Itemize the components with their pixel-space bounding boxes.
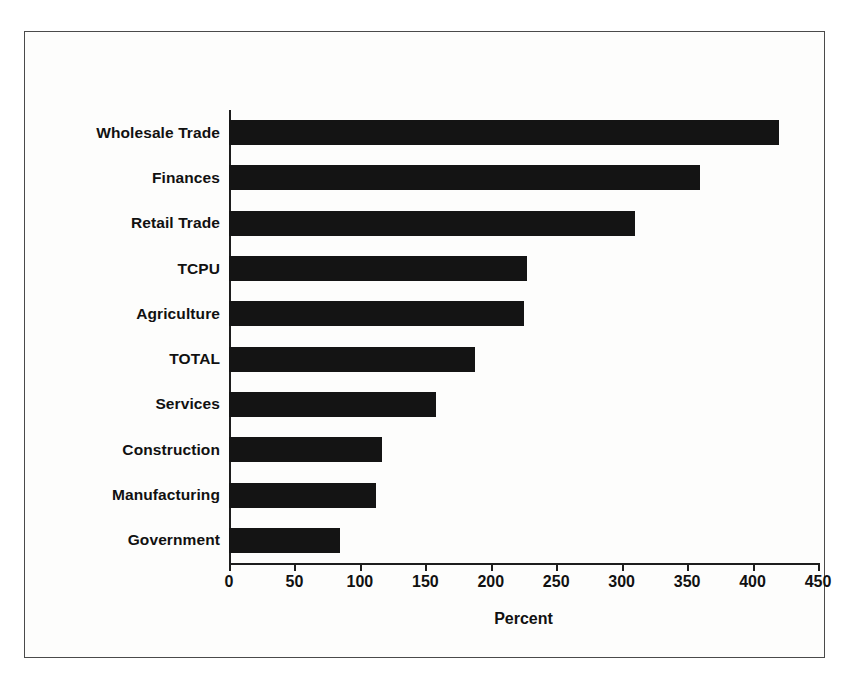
- bar-row: Manufacturing: [229, 483, 818, 508]
- bar-row: TOTAL: [229, 347, 818, 372]
- x-axis-tick: [753, 563, 755, 571]
- bar: [229, 437, 382, 462]
- category-label: Finances: [152, 169, 220, 187]
- bar: [229, 120, 779, 145]
- bar-row: Retail Trade: [229, 211, 818, 236]
- x-axis-tick-label: 50: [286, 573, 304, 591]
- x-axis-tick-label: 400: [739, 573, 766, 591]
- x-axis-tick: [425, 563, 427, 571]
- bar: [229, 211, 635, 236]
- chart-figure: Wholesale TradeFinancesRetail TradeTCPUA…: [0, 0, 851, 675]
- bar-row: Government: [229, 528, 818, 553]
- bar: [229, 301, 524, 326]
- x-axis-tick-label: 200: [477, 573, 504, 591]
- category-label: TOTAL: [169, 350, 220, 368]
- category-label: Construction: [122, 441, 220, 459]
- bar: [229, 392, 436, 417]
- category-label: Agriculture: [136, 305, 220, 323]
- x-axis-tick: [818, 563, 820, 571]
- bar-row: Construction: [229, 437, 818, 462]
- x-axis-tick-label: 300: [608, 573, 635, 591]
- x-axis-line: [229, 563, 820, 565]
- bar: [229, 528, 340, 553]
- category-label: Wholesale Trade: [96, 124, 220, 142]
- bar-row: Agriculture: [229, 301, 818, 326]
- bar: [229, 347, 475, 372]
- category-label: Services: [155, 395, 220, 413]
- x-axis-tick-label: 250: [543, 573, 570, 591]
- bar-row: TCPU: [229, 256, 818, 281]
- x-axis-tick: [360, 563, 362, 571]
- category-label: Manufacturing: [112, 486, 220, 504]
- bar: [229, 483, 376, 508]
- category-label: Retail Trade: [131, 214, 220, 232]
- x-axis-tick: [687, 563, 689, 571]
- x-axis-tick-label: 350: [674, 573, 701, 591]
- x-axis-tick: [556, 563, 558, 571]
- bar-row: Finances: [229, 165, 818, 190]
- category-label: Government: [128, 531, 220, 549]
- x-axis-tick-label: 100: [347, 573, 374, 591]
- x-axis-tick: [491, 563, 493, 571]
- x-axis-tick-label: 150: [412, 573, 439, 591]
- x-axis-tick: [294, 563, 296, 571]
- bar: [229, 256, 527, 281]
- x-axis-tick: [622, 563, 624, 571]
- chart-frame: Wholesale TradeFinancesRetail TradeTCPUA…: [24, 31, 825, 658]
- bar-row: Wholesale Trade: [229, 120, 818, 145]
- x-axis-title: Percent: [229, 610, 818, 628]
- category-label: TCPU: [177, 260, 220, 278]
- x-axis-tick: [229, 563, 231, 571]
- bar: [229, 165, 700, 190]
- x-axis-tick-label: 0: [225, 573, 234, 591]
- x-axis-tick-label: 450: [805, 573, 832, 591]
- bar-row: Services: [229, 392, 818, 417]
